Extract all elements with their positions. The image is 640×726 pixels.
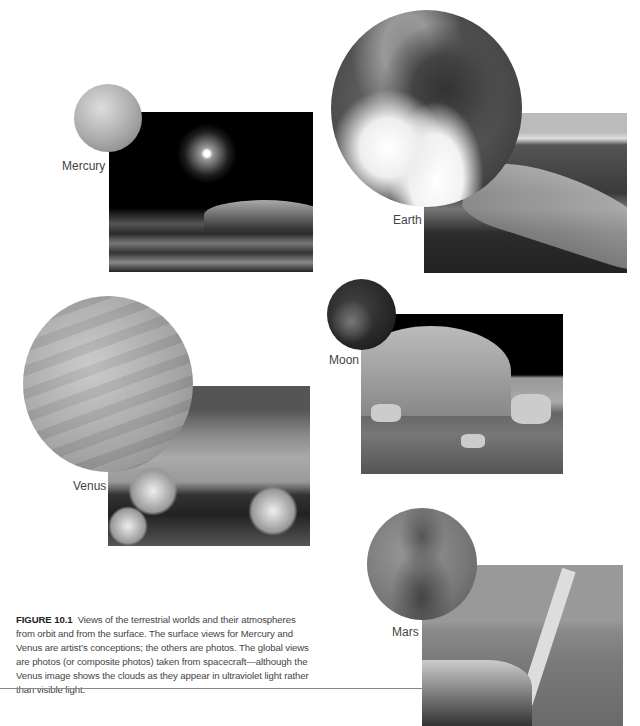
venus-cloud — [108, 506, 148, 546]
moon-label: Moon — [329, 353, 359, 367]
moon-surface-image — [361, 314, 563, 474]
venus-label: Venus — [73, 479, 106, 493]
venus-globe-image — [23, 296, 193, 472]
figure-caption: FIGURE 10.1 Views of the terrestrial wor… — [16, 613, 316, 697]
mercury-globe-image — [74, 84, 142, 152]
moon-rock — [461, 434, 485, 448]
mercury-hill — [204, 200, 313, 230]
figure-caption-text: Views of the terrestrial worlds and thei… — [16, 614, 309, 695]
earth-globe-image — [331, 10, 522, 207]
figure-number: FIGURE 10.1 — [16, 614, 72, 625]
mars-label: Mars — [392, 625, 419, 639]
moon-globe-image — [327, 279, 396, 350]
caption-divider — [0, 688, 422, 689]
moon-rock — [511, 394, 551, 424]
mercury-label: Mercury — [62, 159, 105, 173]
earth-label: Earth — [393, 213, 422, 227]
moon-rock — [371, 404, 401, 422]
mercury-surface-image — [109, 112, 313, 272]
venus-cloud — [248, 486, 298, 536]
mars-lander-body — [422, 660, 532, 726]
mars-globe-image — [367, 508, 477, 620]
